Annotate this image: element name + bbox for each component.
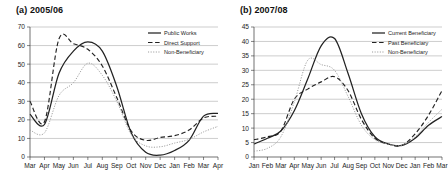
x-tick-label: Aug bbox=[342, 162, 354, 170]
x-tick-label: Dec bbox=[396, 162, 408, 169]
y-tick-label: 10 bbox=[18, 135, 26, 142]
y-tick-label: 10 bbox=[242, 125, 250, 132]
legend-label: Current Beneficiary bbox=[388, 30, 436, 36]
y-tick-label: 25 bbox=[242, 81, 250, 88]
y-tick-label: 35 bbox=[242, 52, 250, 59]
y-tick-label: 20 bbox=[242, 96, 250, 103]
x-tick-label: Jan bbox=[169, 162, 180, 169]
y-tick-label: 40 bbox=[242, 38, 250, 45]
figure-canvas: (a) 2005/06 010203040506070MarAprMayJunJ… bbox=[0, 0, 448, 182]
x-tick-label: Jul bbox=[84, 162, 93, 169]
x-tick-label: Mar bbox=[436, 162, 448, 169]
x-tick-label: Mar bbox=[275, 162, 287, 169]
x-tick-label: Jun bbox=[316, 162, 327, 169]
x-tick-label: Apr bbox=[39, 162, 50, 170]
y-tick-label: 50 bbox=[18, 61, 26, 68]
chart-panel-b: (b) 2007/08 051015202530354045JanFebMarA… bbox=[224, 0, 448, 182]
chart-panel-a: (a) 2005/06 010203040506070MarAprMayJunJ… bbox=[0, 0, 224, 182]
y-tick-label: 30 bbox=[242, 67, 250, 74]
panel-a-plot: 010203040506070MarAprMayJunJulAugSepOctN… bbox=[0, 0, 224, 182]
x-tick-label: Aug bbox=[96, 162, 108, 170]
x-tick-label: Nov bbox=[382, 162, 394, 169]
y-tick-label: 60 bbox=[18, 42, 26, 49]
y-tick-label: 0 bbox=[245, 153, 249, 160]
x-tick-label: Sep bbox=[356, 162, 368, 170]
y-tick-label: 40 bbox=[18, 79, 26, 86]
x-tick-label: Feb bbox=[262, 162, 274, 169]
x-tick-label: Jan bbox=[249, 162, 260, 169]
y-tick-label: 30 bbox=[18, 98, 26, 105]
legend-label: Past Beneficiary bbox=[388, 40, 429, 46]
x-tick-label: May bbox=[53, 162, 66, 170]
y-tick-label: 20 bbox=[18, 116, 26, 123]
y-tick-label: 5 bbox=[245, 139, 249, 146]
x-tick-label: Apr bbox=[289, 162, 300, 170]
x-tick-label: Nov bbox=[140, 162, 152, 169]
panel-b-svg: 051015202530354045JanFebMarAprMayJunJulA… bbox=[224, 0, 448, 182]
y-tick-label: 15 bbox=[242, 110, 250, 117]
x-tick-label: Feb bbox=[423, 162, 435, 169]
x-tick-label: Oct bbox=[126, 162, 136, 169]
legend-label: Non-Beneficiary bbox=[388, 49, 428, 55]
y-tick-label: 70 bbox=[18, 23, 26, 30]
x-tick-label: Jun bbox=[68, 162, 79, 169]
x-tick-label: Sep bbox=[111, 162, 123, 170]
x-tick-label: Dec bbox=[154, 162, 166, 169]
legend-label: Public Works bbox=[164, 30, 197, 36]
x-tick-label: Oct bbox=[370, 162, 380, 169]
x-tick-label: Jul bbox=[330, 162, 339, 169]
panel-a-svg: 010203040506070MarAprMayJunJulAugSepOctN… bbox=[0, 0, 224, 182]
x-tick-label: Feb bbox=[183, 162, 195, 169]
x-tick-label: Mar bbox=[198, 162, 210, 169]
y-tick-label: 0 bbox=[21, 153, 25, 160]
series-line bbox=[254, 76, 442, 146]
x-tick-label: May bbox=[301, 162, 314, 170]
panel-b-plot: 051015202530354045JanFebMarAprMayJunJulA… bbox=[224, 0, 448, 182]
x-tick-label: Jan bbox=[410, 162, 421, 169]
x-tick-label: Apr bbox=[213, 162, 224, 170]
x-tick-label: Mar bbox=[24, 162, 36, 169]
y-tick-label: 45 bbox=[242, 23, 250, 30]
legend-label: Non-Beneficiary bbox=[164, 49, 204, 55]
legend-label: Direct Support bbox=[164, 40, 200, 46]
